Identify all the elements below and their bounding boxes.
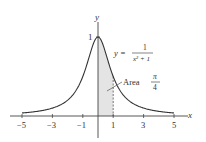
x-tick-label: −1 xyxy=(77,120,86,130)
x-tick-label: 3 xyxy=(141,120,145,130)
graph-canvas: x y 1 y = 1 x² + 1 Area π 4 −5 −3 −1 1 3… xyxy=(0,0,206,142)
x-tick-label: −3 xyxy=(47,120,56,130)
x-tick-label: 1 xyxy=(111,120,115,130)
shaded-area-region xyxy=(98,37,113,116)
y-axis-label: y xyxy=(94,12,99,22)
equation-numerator: 1 xyxy=(143,43,147,52)
equation-lhs: y = xyxy=(113,48,126,58)
area-denominator: 4 xyxy=(153,83,157,92)
area-numerator-pi: π xyxy=(153,72,157,81)
x-axis-label: x xyxy=(187,110,192,120)
equation-denominator: x² + 1 xyxy=(132,55,150,63)
x-tick-label: −5 xyxy=(17,120,26,130)
function-graph: x y 1 y = 1 x² + 1 Area π 4 −5 −3 −1 1 3… xyxy=(0,0,206,142)
area-label-word: Area xyxy=(123,77,140,87)
x-tick-label: 5 xyxy=(172,120,176,130)
y-tick-label-1: 1 xyxy=(88,32,93,42)
